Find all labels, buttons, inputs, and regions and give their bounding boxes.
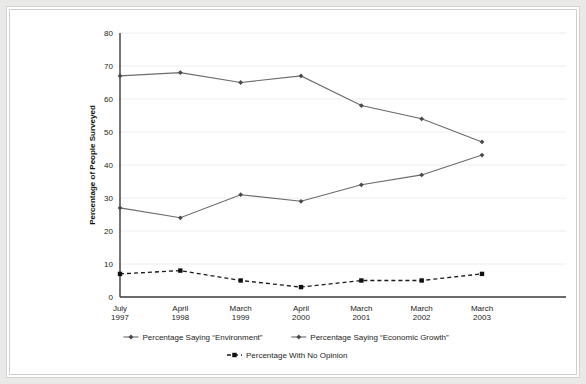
y-tick-label: 0 [109,293,114,302]
chart-figure: 01020304050607080 July1997April1998March… [0,0,586,384]
data-point-marker [480,272,484,276]
data-point-marker [299,74,304,79]
x-tick-label: 1998 [171,313,189,322]
x-axis-tick-labels: July1997April1998March1999April2000March… [111,304,493,322]
x-tick-label: 1997 [111,313,129,322]
data-point-marker [129,335,134,340]
data-point-marker [118,206,123,211]
x-tick-label: 2001 [352,313,370,322]
data-point-marker [118,74,123,79]
data-point-marker [299,285,303,289]
y-tick-label: 40 [104,161,113,170]
y-tick-label: 50 [104,128,113,137]
x-tick-label: March [411,304,433,313]
legend-item-label: Percentage With No Opinion [246,351,347,360]
gridlines-group [120,33,566,264]
x-tick-label: 2002 [413,313,431,322]
data-point-marker [238,80,243,85]
data-point-marker [419,116,424,121]
data-point-marker [178,70,183,75]
data-point-marker [480,140,485,145]
legend-item-label: Percentage Saying “Environment” [142,333,262,342]
y-tick-label: 80 [104,29,113,38]
data-series-group [118,70,485,289]
legend-item: Percentage Saying “Economic Growth” [291,333,449,342]
x-tick-label: July [113,304,127,313]
data-point-marker [232,353,236,357]
y-tick-label: 30 [104,194,113,203]
data-point-marker [238,278,242,282]
legend-item: Percentage Saying “Environment” [123,333,262,342]
data-point-marker [238,192,243,197]
line-chart-svg: 01020304050607080 July1997April1998March… [0,0,586,384]
data-point-marker [178,215,183,220]
x-tick-label: March [471,304,493,313]
x-tick-label: April [172,304,188,313]
data-point-marker [480,153,485,158]
data-point-marker [118,272,122,276]
data-point-marker [419,173,424,178]
data-point-marker [359,103,364,108]
x-tick-label: April [293,304,309,313]
x-tick-label: 2000 [292,313,310,322]
x-tick-label: 2003 [473,313,491,322]
legend-item-label: Percentage Saying “Economic Growth” [310,333,449,342]
x-tick-label: March [230,304,252,313]
y-axis-tick-labels: 01020304050607080 [104,29,113,302]
y-tick-label: 20 [104,227,113,236]
series-line [120,271,482,288]
y-tick-label: 70 [104,62,113,71]
data-point-marker [299,199,304,204]
legend-item: Percentage With No Opinion [227,351,347,360]
data-point-marker [296,335,301,340]
y-tick-label: 10 [104,260,113,269]
x-tick-label: March [350,304,372,313]
data-point-marker [419,278,423,282]
chart-legend: Percentage Saying “Environment”Percentag… [123,333,448,360]
data-point-marker [178,268,182,272]
data-point-marker [359,182,364,187]
x-tick-label: 1999 [232,313,250,322]
y-tick-label: 60 [104,95,113,104]
data-point-marker [359,278,363,282]
y-axis-title: Percentage of People Surveyed [88,105,97,225]
